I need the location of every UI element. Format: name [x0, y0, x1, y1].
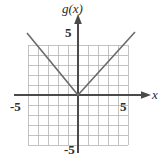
graph-figure: g(x) 5 -5 5 -5 x — [0, 0, 167, 165]
y-tick-label-negative-5: -5 — [64, 143, 75, 156]
x-axis — [14, 91, 151, 99]
curve-g-of-x-shape — [27, 32, 135, 95]
y-tick-label-positive-5: 5 — [65, 26, 72, 39]
x-tick-label-negative-5: -5 — [10, 100, 21, 113]
y-axis — [74, 14, 82, 153]
coordinate-plane — [0, 0, 167, 165]
x-tick-label-positive-5: 5 — [120, 100, 127, 113]
y-axis-function-label: g(x) — [62, 2, 83, 15]
x-axis-label: x — [152, 88, 158, 101]
